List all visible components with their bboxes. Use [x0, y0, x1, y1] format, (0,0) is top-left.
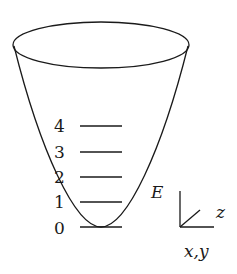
energy-levels	[80, 126, 122, 227]
paraboloid-rim	[13, 22, 189, 68]
z-axis	[180, 210, 200, 227]
level-label-3: 3	[54, 142, 65, 162]
harmonic-oscillator-diagram: 4 3 2 1 0 E z x,y	[0, 0, 237, 274]
level-label-1: 1	[54, 192, 65, 212]
energy-level-labels: 4 3 2 1 0	[54, 116, 65, 238]
level-label-0: 0	[54, 218, 65, 238]
level-label-2: 2	[54, 167, 65, 187]
z-axis-label: z	[215, 202, 226, 222]
xy-axis-label: x,y	[184, 241, 209, 261]
energy-axis-label: E	[150, 182, 164, 202]
coordinate-axes	[180, 191, 214, 227]
level-label-4: 4	[54, 116, 65, 136]
